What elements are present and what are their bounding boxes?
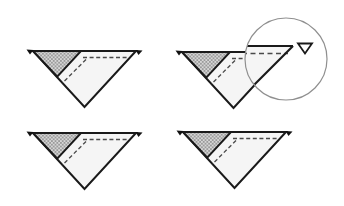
- left-corner-marker-icon: [27, 132, 34, 137]
- quilt-diagram: [0, 0, 344, 206]
- quilt-diagram-canvas: [0, 0, 344, 206]
- right-corner-marker-icon: [136, 50, 143, 55]
- magnifier-lens: [242, 18, 327, 100]
- right-corner-marker-icon: [286, 131, 293, 136]
- right-corner-marker-icon: [136, 132, 143, 137]
- left-corner-marker-icon: [176, 51, 183, 56]
- left-corner-marker-icon: [177, 131, 184, 136]
- triangle-unit-1: [27, 50, 143, 108]
- triangle-unit-4: [177, 131, 293, 189]
- triangle-unit-3: [27, 132, 143, 190]
- left-corner-marker-icon: [27, 50, 34, 55]
